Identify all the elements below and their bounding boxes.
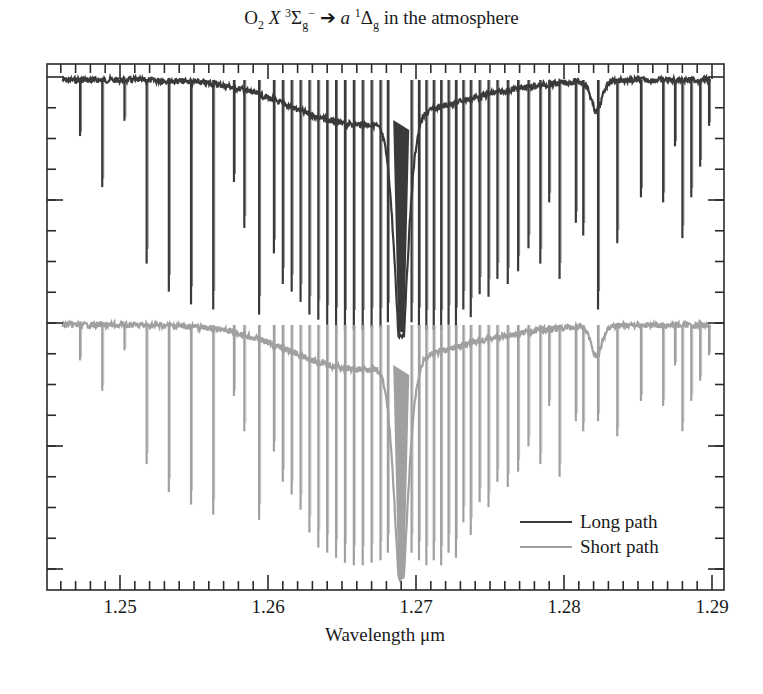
- legend-item-long-path: Long path: [520, 509, 659, 534]
- x-tick-label: 1.25: [103, 596, 136, 618]
- x-axis-label: Wavelength μm: [0, 624, 763, 646]
- legend-label: Short path: [580, 536, 659, 558]
- x-tick-label: 1.28: [547, 596, 580, 618]
- legend-swatch-short-path: [520, 546, 572, 548]
- spectrum-envelope: [62, 77, 710, 337]
- legend-swatch-long-path: [520, 521, 572, 523]
- series-long-path: [62, 77, 710, 337]
- plot-area: [0, 0, 763, 694]
- spectrum-series: [62, 77, 710, 580]
- x-tick-label: 1.29: [695, 596, 728, 618]
- legend: Long path Short path: [520, 509, 659, 559]
- legend-label: Long path: [580, 511, 658, 533]
- legend-item-short-path: Short path: [520, 534, 659, 559]
- x-tick-label: 1.26: [251, 596, 284, 618]
- x-tick-label: 1.27: [399, 596, 432, 618]
